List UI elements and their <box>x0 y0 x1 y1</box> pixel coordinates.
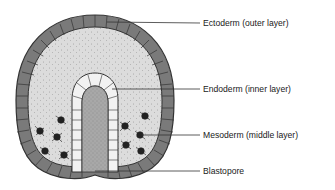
label-mesoderm: Mesoderm (middle layer) <box>203 131 298 140</box>
gastrula-diagram <box>0 0 335 190</box>
label-endoderm: Endoderm (inner layer) <box>203 85 291 94</box>
label-blastopore: Blastopore <box>203 167 244 176</box>
label-ectoderm: Ectoderm (outer layer) <box>203 19 289 28</box>
endoderm-layer <box>72 73 118 172</box>
